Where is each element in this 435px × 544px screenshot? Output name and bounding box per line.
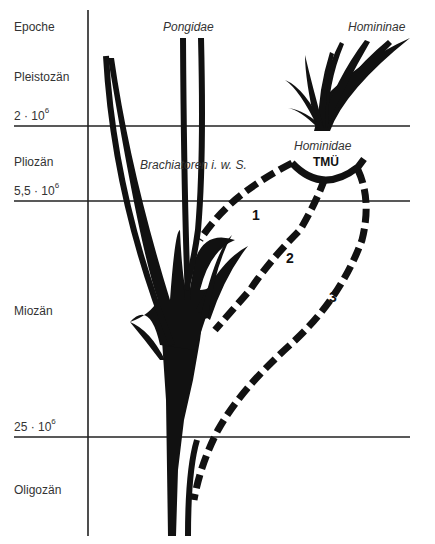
- oligocene-branch: [188, 440, 197, 536]
- path-number-3: 3: [329, 290, 337, 304]
- taxon-tmu: TMÜ: [313, 156, 339, 168]
- boundary-label-5-5my: 5,5 · 106: [14, 184, 59, 197]
- boundary-label-25my-exp: 6: [51, 417, 55, 426]
- path-number-1: 1: [252, 208, 260, 222]
- path-number-2: 2: [286, 251, 294, 265]
- epoch-pleistocene: Pleistozän: [14, 71, 69, 83]
- taxon-homininae: Homininae: [348, 21, 405, 33]
- boundary-label-2my-base: 2 · 10: [14, 109, 45, 123]
- epoch-pliocene: Pliozän: [14, 156, 53, 168]
- boundary-label-5-5my-base: 5,5 · 10: [14, 184, 55, 198]
- epoch-oligocene: Oligozän: [14, 484, 61, 496]
- taxon-hominidae: Hominidae: [294, 140, 351, 152]
- boundary-label-2my: 2 · 106: [14, 109, 49, 122]
- epoch-miocene: Miozän: [14, 305, 53, 317]
- homininae-fan: [285, 38, 410, 131]
- brachiatoren-trunk: [108, 58, 248, 536]
- epoch-header: Epoche: [14, 21, 55, 33]
- boundary-label-25my: 25 · 106: [14, 420, 56, 433]
- boundary-label-5-5my-exp: 6: [55, 181, 59, 190]
- taxon-brachiatoren: Brachiatoren i. w. S.: [140, 159, 247, 171]
- boundary-label-2my-exp: 6: [45, 106, 49, 115]
- boundary-label-25my-base: 25 · 10: [14, 420, 51, 434]
- taxon-pongidae: Pongidae: [163, 21, 214, 33]
